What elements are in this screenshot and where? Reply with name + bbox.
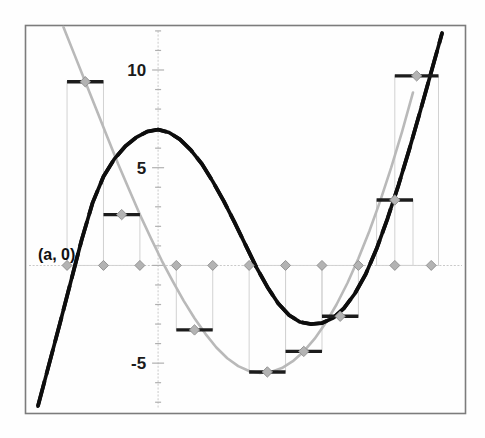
rectangle-midpoint-marker (411, 71, 421, 81)
rectangle-midpoint-marker (189, 325, 199, 335)
point-a-label: (a, 0) (38, 246, 75, 263)
x-axis-sample-marker (390, 260, 400, 270)
riemann-rectangle (286, 265, 322, 351)
gray-curve-layer (63, 27, 413, 373)
x-axis-sample-marker (426, 260, 436, 270)
chart-figure: 105-5 (a, 0) (0, 0, 485, 438)
rectangle-midpoint-marker (80, 77, 90, 87)
x-axis-sample-marker (317, 260, 327, 270)
x-axis-sample-marker (98, 260, 108, 270)
x-axis-sample-marker (281, 260, 291, 270)
riemann-rectangle (67, 82, 103, 266)
axes-layer (29, 31, 462, 408)
riemann-rectangle (249, 265, 285, 372)
tick-labels-layer: 105-5 (127, 61, 146, 373)
rectangle-midpoint-marker (262, 367, 272, 377)
x-axis-sample-marker (208, 260, 218, 270)
y-tick-label: -5 (131, 354, 146, 373)
bar-caps-layer (67, 76, 438, 372)
y-tick-label: 10 (127, 61, 146, 80)
plot-frame (26, 26, 466, 414)
x-axis-sample-marker (171, 260, 181, 270)
riemann-rectangle (103, 215, 139, 266)
rectangles-layer (67, 76, 438, 372)
y-tick-label: 5 (137, 159, 146, 178)
x-axis-sample-marker (135, 260, 145, 270)
black-curve-shadow (38, 33, 442, 406)
black-curve (38, 33, 442, 406)
rectangle-midpoint-marker (116, 209, 126, 219)
riemann-sum-plot: 105-5 (a, 0) (0, 0, 485, 438)
black-curve-layer (38, 33, 442, 406)
gray-curve (63, 27, 413, 373)
